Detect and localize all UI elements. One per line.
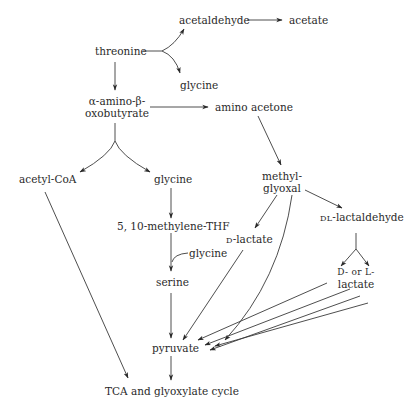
node-methylglyoxal-line1: methyl- — [262, 170, 302, 182]
pathway-arrows — [0, 0, 410, 413]
node-tca-cycle: TCA and glyoxylate cycle — [105, 385, 239, 397]
node-acetate: acetate — [289, 14, 328, 26]
node-amino-oxobutyrate-line2: oxobutyrate — [82, 107, 152, 119]
node-dl-lactaldehyde: DL-lactaldehyde — [320, 211, 404, 225]
node-methylglyoxal: methyl- glyoxal — [262, 170, 302, 194]
arrow-dlactate-pyruvate — [183, 250, 243, 340]
node-d-lactate: D-lactate — [226, 233, 273, 247]
arrow-lactate2-pyruvate — [205, 289, 350, 345]
arrow-methylglyoxal-lactaldehyde — [305, 190, 342, 208]
node-serine: serine — [156, 276, 189, 288]
node-threonine: threonine — [95, 45, 147, 57]
node-amino-oxobutyrate-line1: α-amino-β- — [82, 95, 152, 107]
glycine-cofactor-curve — [172, 253, 188, 262]
lactaldehyde-fork-arrows — [341, 233, 369, 266]
node-glycine-side: glycine — [189, 247, 227, 259]
node-glycine-mid: glycine — [154, 173, 192, 185]
dl-prefix: DL — [320, 214, 332, 223]
lactate-suffix: -lactate — [233, 233, 273, 245]
arrow-aminoacetone-methylglyoxal — [258, 116, 281, 165]
arrow-methylglyoxal-pyruvate — [225, 195, 292, 340]
node-pyruvate: pyruvate — [152, 342, 199, 354]
node-methylglyoxal-line2: glyoxal — [262, 182, 302, 194]
node-acetyl-coa: acetyl-CoA — [19, 173, 76, 185]
node-dl-lactate-line1: D- or L- — [328, 266, 384, 278]
node-glycine-top: glycine — [180, 79, 218, 91]
lactaldehyde-suffix: -lactaldehyde — [332, 211, 403, 223]
node-amino-oxobutyrate: α-amino-β- oxobutyrate — [82, 95, 152, 119]
threonine-fork-arrows — [143, 29, 184, 73]
arrow-methylglyoxal-dlactate — [255, 195, 277, 228]
node-methylene-thf: 5, 10-methylene-THF — [117, 220, 230, 232]
node-dl-lactate: D- or L- lactate — [328, 266, 384, 290]
arrow-acetylcoa-tca — [45, 192, 128, 378]
node-amino-acetone: amino acetone — [215, 101, 293, 113]
d-prefix: D — [226, 236, 233, 245]
arrow-lactate3-pyruvate — [210, 296, 360, 350]
node-dl-lactate-line2: lactate — [328, 278, 384, 290]
oxobutyrate-fork-arrows — [80, 123, 150, 172]
node-acetaldehyde: acetaldehyde — [179, 14, 250, 26]
